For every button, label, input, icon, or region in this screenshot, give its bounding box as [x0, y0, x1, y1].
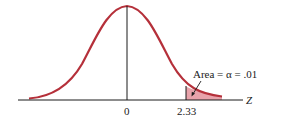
axis-label: Z	[246, 94, 253, 106]
area-annotation: Area = α = .01	[193, 68, 257, 80]
normal-distribution-diagram: Z 0 2.33 Area = α = .01	[0, 0, 286, 129]
tick-label-zero: 0	[124, 105, 130, 117]
tick-label-critical: 2.33	[177, 105, 197, 117]
normal-curve	[29, 6, 222, 99]
